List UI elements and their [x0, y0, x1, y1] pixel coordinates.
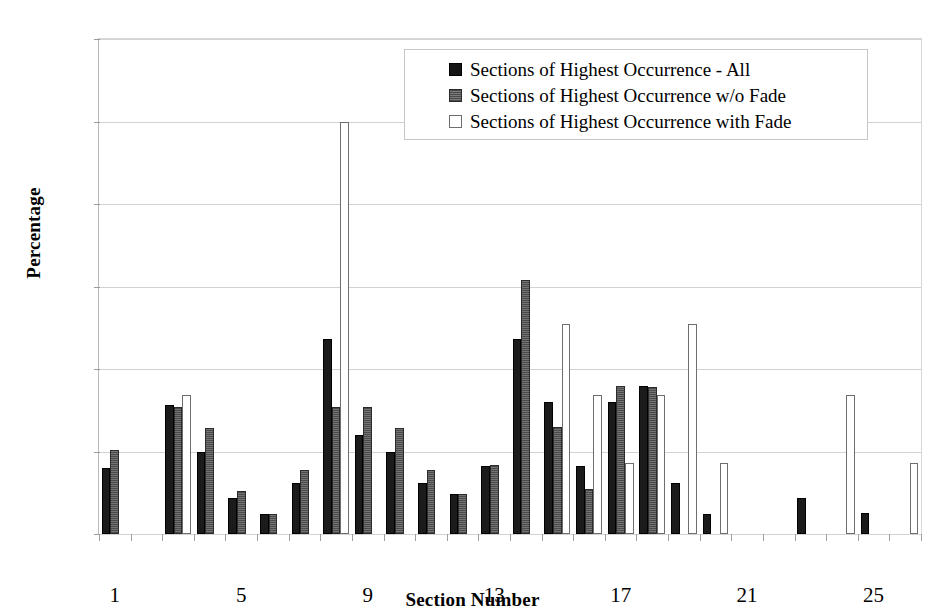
x-tick-label: 17 [591, 585, 651, 606]
bar [228, 498, 237, 534]
x-tick-label: 21 [717, 585, 777, 606]
y-tick-mark [94, 204, 100, 205]
bar [197, 452, 206, 535]
x-tick-mark [289, 534, 290, 541]
bar [625, 463, 634, 534]
bar [513, 339, 522, 534]
legend-item-with-fade: Sections of Highest Occurrence with Fade [449, 108, 867, 134]
gridline [99, 452, 921, 453]
x-tick-label: 1 [85, 585, 145, 606]
bar [418, 483, 427, 534]
bar [562, 324, 571, 534]
bar [450, 494, 459, 534]
x-tick-mark [826, 534, 827, 541]
bar [688, 324, 697, 534]
legend-label-with-fade: Sections of Highest Occurrence with Fade [470, 112, 791, 131]
bar [102, 468, 111, 534]
y-tick-mark [94, 452, 100, 453]
bar [671, 483, 680, 534]
x-tick-mark [795, 534, 796, 541]
chart-legend: Sections of Highest Occurrence - All Sec… [404, 49, 868, 140]
x-tick-mark [668, 534, 669, 541]
x-tick-mark [225, 534, 226, 541]
bar [910, 463, 919, 534]
x-tick-label: 5 [211, 585, 271, 606]
bar [340, 122, 349, 535]
bar [703, 514, 712, 534]
x-tick-mark [131, 534, 132, 541]
x-tick-mark [162, 534, 163, 541]
x-tick-mark [700, 534, 701, 541]
x-tick-mark [636, 534, 637, 541]
x-tick-mark [763, 534, 764, 541]
legend-item-wo-fade: Sections of Highest Occurrence w/o Fade [449, 82, 867, 108]
x-tick-label: 25 [844, 585, 904, 606]
x-tick-label: 9 [338, 585, 398, 606]
bar [639, 386, 648, 535]
x-tick-mark [447, 534, 448, 541]
legend-swatch-icon-wo-fade [449, 89, 462, 102]
y-tick-mark [94, 287, 100, 288]
gridline [99, 369, 921, 370]
x-tick-mark [858, 534, 859, 541]
gridline [99, 287, 921, 288]
bar [323, 339, 332, 534]
bar [720, 463, 729, 534]
bar [585, 489, 594, 534]
x-tick-mark [352, 534, 353, 541]
x-tick-mark [510, 534, 511, 541]
y-tick-mark [94, 122, 100, 123]
bar [657, 395, 666, 534]
legend-swatch-icon-all [449, 63, 462, 76]
x-tick-mark [99, 534, 100, 541]
bar [332, 407, 341, 534]
legend-item-all: Sections of Highest Occurrence - All [449, 56, 867, 82]
bar [553, 427, 562, 534]
bar [260, 514, 269, 534]
bar [846, 395, 855, 534]
bar [427, 470, 436, 534]
bar [386, 452, 395, 535]
x-tick-mark [605, 534, 606, 541]
bar [576, 466, 585, 534]
legend-label-wo-fade: Sections of Highest Occurrence w/o Fade [470, 86, 786, 105]
bar [174, 407, 183, 534]
bar [593, 395, 602, 534]
bar [648, 387, 657, 534]
x-tick-label: 13 [464, 585, 524, 606]
bar [481, 466, 490, 534]
bar [458, 494, 467, 534]
bar [182, 395, 191, 534]
bar [363, 407, 372, 534]
x-tick-mark [478, 534, 479, 541]
x-tick-mark [194, 534, 195, 541]
x-tick-mark [320, 534, 321, 541]
x-tick-mark [257, 534, 258, 541]
bar [608, 402, 617, 534]
x-tick-mark [573, 534, 574, 541]
bar [292, 483, 301, 534]
x-tick-mark [415, 534, 416, 541]
gridline [99, 204, 921, 205]
bar [490, 465, 499, 534]
y-tick-mark [94, 369, 100, 370]
bar [616, 386, 625, 535]
bar [797, 498, 806, 534]
gridline [99, 39, 921, 40]
bar [861, 513, 870, 534]
x-tick-mark [542, 534, 543, 541]
bar [165, 405, 174, 534]
legend-label-all: Sections of Highest Occurrence - All [470, 60, 750, 79]
x-tick-mark [889, 534, 890, 541]
x-tick-mark [384, 534, 385, 541]
bar [395, 428, 404, 534]
y-tick-mark [94, 39, 100, 40]
bar [110, 450, 119, 534]
bar [269, 514, 278, 534]
bar [300, 470, 309, 534]
bar [544, 402, 553, 534]
bar [237, 491, 246, 534]
legend-swatch-icon-with-fade [449, 115, 462, 128]
x-tick-mark [921, 534, 922, 541]
bar [205, 428, 214, 534]
